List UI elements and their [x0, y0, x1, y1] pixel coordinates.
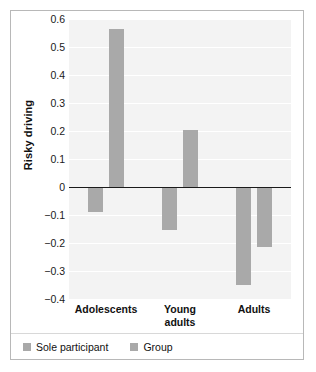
bar — [236, 187, 251, 285]
y-axis-tick-label: 0.6 — [50, 13, 65, 25]
gridline — [69, 131, 291, 132]
bar — [183, 130, 198, 187]
zero-axis-line — [69, 187, 291, 188]
gridline — [69, 159, 291, 160]
x-axis-category-label: Adults — [238, 303, 271, 316]
y-axis-tick-label: −0.1 — [44, 209, 65, 221]
legend-label: Group — [143, 341, 172, 353]
legend-swatch-icon — [130, 343, 138, 351]
y-axis-tick-label: −0.4 — [44, 293, 65, 305]
x-axis-category-label: Young adults — [164, 303, 196, 328]
bar — [109, 29, 124, 187]
y-axis-tick-label: 0 — [59, 181, 65, 193]
plot-area — [69, 19, 291, 299]
gridline — [69, 47, 291, 48]
y-axis-tick-label: 0.1 — [50, 153, 65, 165]
bar — [88, 187, 103, 212]
legend-item: Sole participant — [23, 341, 108, 353]
x-axis-category-label: Adolescents — [75, 303, 137, 316]
chart-legend: Sole participantGroup — [11, 333, 303, 359]
figure-card: Risky driving 0.60.50.40.30.20.10−0.1−0.… — [10, 10, 304, 360]
y-axis-tick-label: 0.5 — [50, 41, 65, 53]
bar-chart: Risky driving 0.60.50.40.30.20.10−0.1−0.… — [11, 11, 303, 307]
y-axis-tick-label: −0.3 — [44, 265, 65, 277]
gridline — [69, 75, 291, 76]
gridline — [69, 271, 291, 272]
gridline — [69, 19, 291, 20]
y-axis-tick-labels: 0.60.50.40.30.20.10−0.1−0.2−0.3−0.4 — [31, 19, 65, 299]
y-axis-tick-label: 0.4 — [50, 69, 65, 81]
y-axis-tick-label: −0.2 — [44, 237, 65, 249]
legend-label: Sole participant — [36, 341, 108, 353]
gridline — [69, 103, 291, 104]
legend-item: Group — [130, 341, 172, 353]
y-axis-tick-label: 0.3 — [50, 97, 65, 109]
legend-swatch-icon — [23, 343, 31, 351]
y-axis-tick-label: 0.2 — [50, 125, 65, 137]
bar — [162, 187, 177, 230]
bar — [257, 187, 272, 247]
